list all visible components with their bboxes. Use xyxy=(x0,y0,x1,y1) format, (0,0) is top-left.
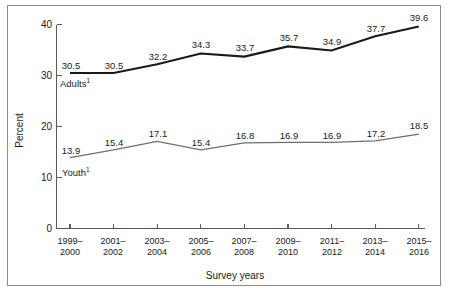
xtick-label-5: 2009– 2010 xyxy=(266,236,310,258)
y-axis-title: Percent xyxy=(14,101,25,161)
chart-axes xyxy=(57,25,425,229)
youth-point-label-6: 16.9 xyxy=(317,131,347,141)
xtick-label-8-line2: 2016 xyxy=(397,247,441,258)
xtick-label-3: 2005– 2006 xyxy=(179,236,223,258)
series-label-youth-footnote: 1 xyxy=(86,166,90,173)
series-label-youth: Youth1 xyxy=(62,168,90,178)
xtick-label-6-line2: 2012 xyxy=(310,247,354,258)
series-label-adults: Adults1 xyxy=(60,79,90,89)
series-label-youth-text: Youth xyxy=(62,167,86,178)
adults-point-label-4: 33.7 xyxy=(230,43,260,53)
xtick-label-8-line1: 2015– xyxy=(397,236,441,247)
ytick-label-40: 40 xyxy=(26,19,52,30)
youth-point-label-2: 17.1 xyxy=(143,129,173,139)
adults-point-label-0: 30.5 xyxy=(56,61,86,71)
adults-point-label-3: 34.3 xyxy=(186,40,216,50)
xtick-label-5-line1: 2009– xyxy=(266,236,310,247)
xtick-label-3-line2: 2006 xyxy=(179,247,223,258)
xtick-label-4-line1: 2007– xyxy=(222,236,266,247)
xtick-label-6: 2011– 2012 xyxy=(310,236,354,258)
xtick-label-0: 1999– 2000 xyxy=(48,236,92,258)
xtick-label-6-line1: 2011– xyxy=(310,236,354,247)
xtick-label-0-line2: 2000 xyxy=(48,247,92,258)
xtick-label-4: 2007– 2008 xyxy=(222,236,266,258)
adults-point-label-2: 32.2 xyxy=(143,52,173,62)
xtick-label-8: 2015– 2016 xyxy=(397,236,441,258)
youth-point-label-3: 15.4 xyxy=(186,138,216,148)
x-axis-title: Survey years xyxy=(175,270,295,281)
youth-point-label-0: 13.9 xyxy=(56,146,86,156)
youth-point-label-4: 16.8 xyxy=(230,131,260,141)
xtick-label-4-line2: 2008 xyxy=(222,247,266,258)
xtick-label-2: 2003– 2004 xyxy=(135,236,179,258)
youth-point-label-8: 18.5 xyxy=(404,121,434,131)
xtick-label-7-line1: 2013– xyxy=(353,236,397,247)
xtick-label-7-line2: 2014 xyxy=(353,247,397,258)
xtick-label-5-line2: 2010 xyxy=(266,247,310,258)
youth-point-label-1: 15.4 xyxy=(99,138,129,148)
xtick-label-1-line2: 2002 xyxy=(91,247,135,258)
adults-point-label-6: 34.9 xyxy=(317,37,347,47)
adults-point-label-7: 37.7 xyxy=(361,24,391,34)
xtick-label-2-line1: 2003– xyxy=(135,236,179,247)
xtick-label-7: 2013– 2014 xyxy=(353,236,397,258)
adults-point-label-8: 39.6 xyxy=(404,13,434,23)
series-label-adults-footnote: 1 xyxy=(86,77,90,84)
xtick-label-1: 2001– 2002 xyxy=(91,236,135,258)
ytick-label-10: 10 xyxy=(26,172,52,183)
adults-point-label-1: 30.5 xyxy=(99,61,129,71)
xtick-label-2-line2: 2004 xyxy=(135,247,179,258)
ytick-label-0: 0 xyxy=(26,223,52,234)
ytick-label-30: 30 xyxy=(26,70,52,81)
youth-point-label-5: 16.9 xyxy=(274,131,304,141)
adults-point-label-5: 35.7 xyxy=(274,33,304,43)
youth-point-label-7: 17.2 xyxy=(361,129,391,139)
series-label-adults-text: Adults xyxy=(60,78,86,89)
xtick-label-0-line1: 1999– xyxy=(48,236,92,247)
chart-figure: 40 30 20 10 0 Percent 1999– 2000 2001– 2… xyxy=(0,0,449,291)
xtick-label-3-line1: 2005– xyxy=(179,236,223,247)
xtick-label-1-line1: 2001– xyxy=(91,236,135,247)
ytick-label-20: 20 xyxy=(26,121,52,132)
